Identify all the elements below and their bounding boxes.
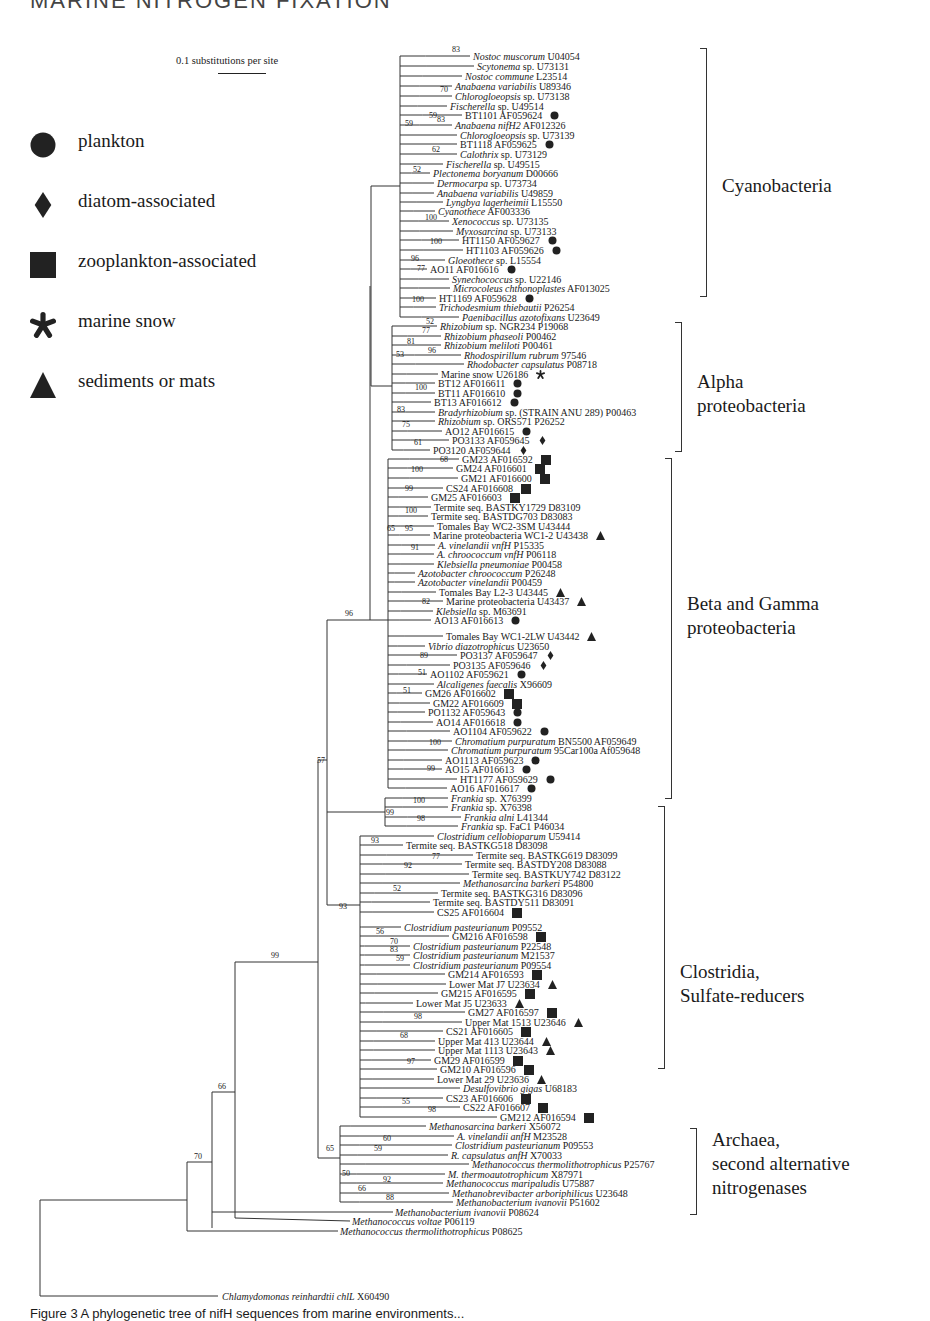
bootstrap-value: 93 (339, 903, 347, 911)
bootstrap-value: 97 (407, 1058, 415, 1066)
bootstrap-value: 75 (402, 421, 410, 429)
bootstrap-value: 60 (383, 1135, 391, 1143)
leaf-accession: U59414 (546, 831, 581, 842)
bootstrap-value: 82 (422, 598, 430, 606)
leaf-accession: U43442 (545, 631, 580, 642)
triangle-icon (587, 632, 596, 643)
leaf-accession: D83091 (539, 897, 574, 908)
bootstrap-value: 96 (428, 347, 436, 355)
leaf-accession: P51602 (567, 1197, 600, 1208)
tree-leaf: CS25 AF016604 (437, 907, 522, 920)
circle-icon (552, 246, 561, 257)
bootstrap-value: 66 (218, 1083, 226, 1091)
leaf-accession: P26252 (532, 416, 565, 427)
clade-label: Beta and Gammaproteobacteria (687, 592, 819, 640)
triangle-icon (574, 1018, 583, 1029)
bootstrap-value: 91 (411, 544, 419, 552)
leaf-accession: AF016604 (459, 907, 504, 918)
bootstrap-value: 95 (405, 525, 413, 533)
bootstrap-value: 50 (342, 1170, 350, 1178)
leaf-name: CS25 (437, 907, 459, 918)
leaf-accession: P08624 (506, 1207, 539, 1218)
bootstrap-value: 51 (403, 687, 411, 695)
bootstrap-value: 100 (412, 296, 424, 304)
triangle-icon (548, 980, 557, 991)
bootstrap-value: 100 (413, 797, 425, 805)
bootstrap-value: 70 (440, 86, 448, 94)
bootstrap-value: 96 (345, 610, 353, 618)
bootstrap-value: 88 (386, 1194, 394, 1202)
diamond-icon (539, 661, 548, 672)
leaf-accession: U43437 (535, 596, 570, 607)
bootstrap-value: 99 (271, 952, 279, 960)
circle-icon (511, 616, 520, 627)
bootstrap-value: 62 (432, 146, 440, 154)
bootstrap-value: 96 (411, 255, 419, 263)
bootstrap-value: 57 (317, 757, 325, 765)
square-icon (512, 908, 522, 920)
leaf-accession: U23646 (531, 1017, 566, 1028)
leaf-accession: P09553 (560, 1140, 593, 1151)
bootstrap-value: 68 (440, 456, 448, 464)
square-icon (521, 484, 531, 496)
clade-bracket (690, 1128, 697, 1215)
leaf-accession: L15550 (529, 197, 563, 208)
leaf-accession: X60490 (355, 1291, 390, 1302)
triangle-icon (546, 1046, 555, 1057)
leaf-accession: P08718 (564, 359, 597, 370)
bootstrap-value: 52 (393, 885, 401, 893)
bootstrap-value: 59 (405, 120, 413, 128)
bootstrap-value: 61 (414, 439, 422, 447)
bootstrap-value: 59 (429, 112, 437, 120)
bootstrap-value: 83 (397, 406, 405, 414)
tree-leaf: Chlamydomonas reinhardtii chlL X60490 (222, 1291, 389, 1302)
triangle-icon (596, 531, 605, 542)
bootstrap-value: 92 (383, 1176, 391, 1184)
leaf-name: Lower Mat J5 (416, 998, 472, 1009)
square-icon (584, 1113, 594, 1125)
clade-label: Clostridia,Sulfate-reducers (680, 960, 805, 1008)
bootstrap-value: 65 (387, 525, 395, 533)
bootstrap-value: 51 (418, 669, 426, 677)
leaf-accession: P08625 (489, 1226, 522, 1237)
bootstrap-value: 65 (326, 1145, 334, 1153)
bootstrap-value: 52 (413, 166, 421, 174)
bootstrap-value: 100 (429, 739, 441, 747)
bootstrap-value: 100 (425, 214, 437, 222)
bootstrap-value: 77 (422, 327, 430, 335)
clade-label: Cyanobacteria (722, 174, 832, 198)
clade-bracket (700, 48, 707, 297)
bootstrap-value: 59 (374, 1145, 382, 1153)
bootstrap-value: 99 (405, 485, 413, 493)
bootstrap-value: 100 (430, 238, 442, 246)
bootstrap-value: 70 (194, 1153, 202, 1161)
leaf-name: AO11 (430, 264, 454, 275)
clade-bracket (658, 806, 665, 1069)
tree-leaf: Methanococcus thermolithotrophicus P0862… (340, 1226, 522, 1237)
leaf-accession: U23649 (565, 312, 600, 323)
bootstrap-value: 83 (437, 116, 445, 124)
bootstrap-value: 89 (420, 652, 428, 660)
bootstrap-value: 55 (402, 1098, 410, 1106)
leaf-name: AO13 (434, 615, 458, 626)
bootstrap-value: 52 (426, 318, 434, 326)
bootstrap-value: 83 (452, 46, 460, 54)
circle-icon (546, 775, 555, 786)
bootstrap-value: 81 (407, 338, 415, 346)
bootstrap-value: 56 (376, 928, 384, 936)
bootstrap-value: 93 (371, 837, 379, 845)
bootstrap-value: 77 (432, 853, 440, 861)
leaf-name: Methanococcus thermolithotrophicus (340, 1226, 489, 1237)
clade-label: Alphaproteobacteria (697, 370, 806, 418)
tree-leaf: AO13 AF016613 (434, 615, 520, 627)
bootstrap-value: 98 (414, 1013, 422, 1021)
bootstrap-value: 99 (386, 809, 394, 817)
bootstrap-value: 98 (428, 1106, 436, 1114)
leaf-accession: U68183 (542, 1083, 577, 1094)
leaf-name: PO3120 (433, 445, 466, 456)
leaf-accession: P25767 (621, 1159, 654, 1170)
figure-caption: Figure 3 A phylogenetic tree of nifH seq… (30, 1306, 464, 1321)
bootstrap-value: 98 (417, 815, 425, 823)
bootstrap-value: 77 (417, 265, 425, 273)
bootstrap-value: 100 (411, 466, 423, 474)
